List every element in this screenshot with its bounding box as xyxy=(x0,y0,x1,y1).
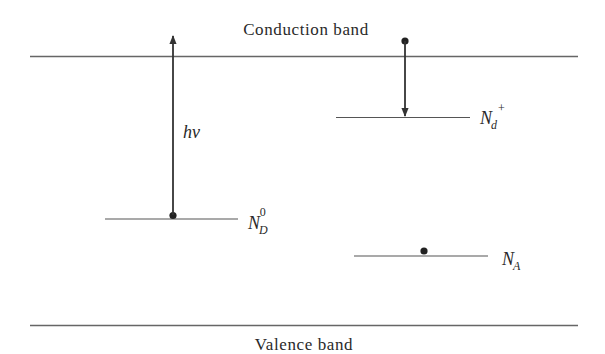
photon-transition: hν xyxy=(173,36,200,215)
conduction-band-label: Conduction band xyxy=(243,20,369,39)
donor-neutral-level: ND0 xyxy=(105,205,268,237)
acceptor-level: NA xyxy=(354,247,521,273)
conduction-band: Conduction band xyxy=(30,20,578,57)
valence-band: Valence band xyxy=(30,326,578,354)
band-diagram: Conduction band Valence band ND0 hν Nd+ … xyxy=(0,0,605,354)
capture-transition xyxy=(401,37,408,116)
donor-ionized-label: Nd+ xyxy=(479,101,505,132)
acceptor-label: NA xyxy=(501,249,521,273)
valence-band-label: Valence band xyxy=(255,335,353,354)
donor-ionized-level: Nd+ xyxy=(336,101,505,132)
photon-energy-label: hν xyxy=(183,122,200,142)
electron-dot-icon xyxy=(420,247,427,254)
donor-neutral-label: ND0 xyxy=(247,205,268,237)
